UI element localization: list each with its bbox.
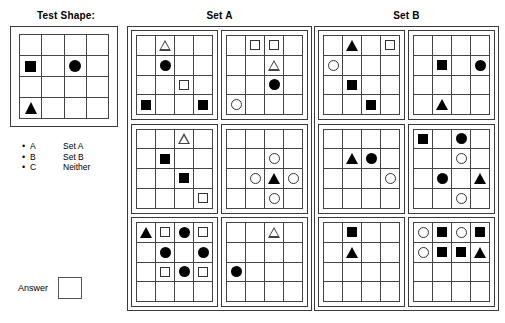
grid-cell-r1c2 — [156, 130, 175, 150]
grid-cell-r3c2 — [246, 169, 265, 189]
set-a-panel-6[interactable] — [221, 217, 308, 307]
grid-cell-r1c1 — [227, 130, 246, 150]
grid-cell-r2c3 — [65, 56, 87, 77]
set-b-panel-1[interactable] — [318, 30, 405, 120]
set-b-panel-6[interactable] — [408, 217, 495, 307]
grid-cell-r1c4 — [194, 223, 213, 243]
grid-cell-r4c3 — [265, 95, 284, 115]
grid-cell-r1c2 — [156, 36, 175, 56]
set-b-grid-5 — [323, 222, 400, 302]
grid-cell-r3c1 — [324, 263, 343, 283]
grid-cell-r2c1 — [324, 149, 343, 169]
grid-cell-r1c2 — [156, 223, 175, 243]
grid-cell-r4c1 — [20, 98, 42, 119]
grid-cell-r4c4 — [284, 189, 303, 209]
set-b-panel-4[interactable] — [408, 124, 495, 214]
set-a-panel-4[interactable] — [221, 124, 308, 214]
legend-value-a: Set A — [63, 141, 83, 152]
grid-cell-r2c4 — [194, 56, 213, 76]
set-b-panel-5[interactable] — [318, 217, 405, 307]
grid-cell-r3c4 — [471, 263, 490, 283]
grid-cell-r3c2 — [246, 263, 265, 283]
grid-cell-r2c2 — [246, 243, 265, 263]
grid-cell-r3c1 — [137, 76, 156, 96]
grid-cell-r1c2 — [433, 130, 452, 150]
set-a-frame — [127, 26, 312, 311]
answer-input-box[interactable] — [58, 277, 82, 299]
grid-cell-r4c1 — [324, 282, 343, 302]
grid-cell-r3c2 — [156, 263, 175, 283]
square-open-icon — [250, 40, 260, 50]
grid-cell-r3c2 — [156, 76, 175, 96]
grid-cell-r2c2 — [156, 149, 175, 169]
circle-open-icon — [456, 227, 467, 238]
legend-item-c: • C Neither — [22, 162, 122, 173]
grid-cell-r3c3 — [452, 169, 471, 189]
grid-cell-r1c1 — [137, 223, 156, 243]
set-b-panel-3[interactable] — [318, 124, 405, 214]
grid-cell-r3c3 — [175, 76, 194, 96]
grid-cell-r2c4 — [284, 149, 303, 169]
set-a-grid-2 — [226, 35, 303, 115]
grid-cell-r2c3 — [452, 149, 471, 169]
circle-filled-icon — [366, 153, 377, 164]
grid-cell-r1c4 — [471, 130, 490, 150]
set-a-panel-3[interactable] — [131, 124, 218, 214]
grid-cell-r1c3 — [362, 223, 381, 243]
grid-cell-r2c2 — [156, 56, 175, 76]
square-filled-icon — [198, 100, 208, 110]
set-b-grid-4 — [413, 129, 490, 209]
grid-cell-r2c1 — [324, 56, 343, 76]
grid-cell-r4c2 — [433, 282, 452, 302]
grid-cell-r1c2 — [246, 130, 265, 150]
set-b-panel-2[interactable] — [408, 30, 495, 120]
square-filled-icon — [160, 154, 170, 164]
square-open-icon — [179, 80, 189, 90]
bullet-icon: • — [22, 162, 30, 173]
grid-cell-r3c3 — [65, 77, 87, 98]
grid-cell-r3c2 — [156, 169, 175, 189]
grid-cell-r3c3 — [175, 263, 194, 283]
grid-cell-r4c1 — [414, 189, 433, 209]
grid-cell-r3c4 — [471, 169, 490, 189]
circle-open-icon — [269, 193, 280, 204]
square-filled-icon — [179, 173, 189, 183]
grid-cell-r2c1 — [20, 56, 42, 77]
square-filled-icon — [366, 100, 376, 110]
grid-cell-r3c3 — [362, 169, 381, 189]
grid-cell-r4c2 — [246, 95, 265, 115]
grid-cell-r1c3 — [362, 36, 381, 56]
grid-cell-r1c3 — [265, 223, 284, 243]
legend-key-b: B — [30, 152, 63, 163]
grid-cell-r4c2 — [343, 189, 362, 209]
grid-cell-r2c4 — [471, 149, 490, 169]
set-a-panel-5[interactable] — [131, 217, 218, 307]
grid-cell-r4c3 — [362, 282, 381, 302]
grid-cell-r4c4 — [471, 282, 490, 302]
grid-cell-r1c3 — [452, 223, 471, 243]
grid-cell-r4c3 — [452, 282, 471, 302]
square-filled-icon — [418, 134, 428, 144]
grid-cell-r2c2 — [343, 149, 362, 169]
grid-cell-r2c4 — [471, 56, 490, 76]
grid-cell-r2c4 — [381, 149, 400, 169]
grid-cell-r2c4 — [471, 243, 490, 263]
grid-cell-r2c1 — [414, 149, 433, 169]
grid-cell-r4c1 — [324, 189, 343, 209]
grid-cell-r3c3 — [452, 76, 471, 96]
grid-cell-r2c1 — [227, 56, 246, 76]
grid-cell-r2c3 — [175, 56, 194, 76]
set-a-grid-4 — [226, 129, 303, 209]
circle-filled-icon — [456, 133, 467, 144]
grid-cell-r1c4 — [471, 36, 490, 56]
grid-cell-r1c1 — [20, 35, 42, 56]
grid-cell-r1c2 — [246, 223, 265, 243]
set-a-panel-2[interactable] — [221, 30, 308, 120]
grid-cell-r2c1 — [137, 243, 156, 263]
grid-cell-r3c4 — [194, 76, 213, 96]
grid-cell-r4c2 — [246, 282, 265, 302]
grid-cell-r4c1 — [227, 282, 246, 302]
grid-cell-r1c1 — [324, 36, 343, 56]
set-b-frame — [314, 26, 499, 311]
set-a-panel-1[interactable] — [131, 30, 218, 120]
